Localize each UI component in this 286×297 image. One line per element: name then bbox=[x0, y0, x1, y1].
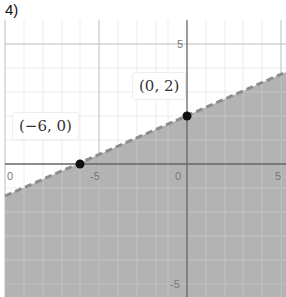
tick-x-5: 5 bbox=[275, 170, 281, 182]
point-neg6-0 bbox=[76, 160, 85, 169]
tick-y-5: 5 bbox=[177, 38, 183, 50]
tick-x-neg5: -5 bbox=[90, 170, 100, 182]
point-label-0-2: (0, 2) bbox=[132, 72, 186, 100]
point-0-2 bbox=[183, 112, 192, 121]
tick-x-0: 0 bbox=[175, 170, 181, 182]
tick-x-neg10: 0 bbox=[7, 170, 13, 182]
tick-y-neg5: -5 bbox=[170, 278, 180, 290]
point-label-neg6-0: (−6, 0) bbox=[12, 112, 79, 140]
inequality-graph: 0 -5 0 5 5 -5 bbox=[0, 0, 286, 297]
